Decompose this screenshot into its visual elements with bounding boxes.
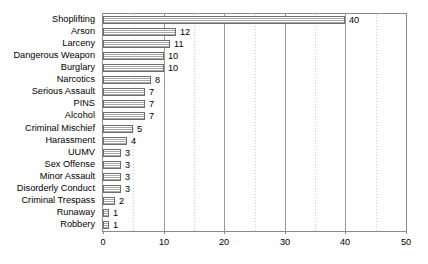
bar-row: 12 [103,26,406,38]
category-label: Minor Assault [40,170,95,182]
bar [103,197,115,205]
bar-row: 4 [103,135,406,147]
value-axis: 01020304050 [102,234,407,254]
axis-tick-label: 50 [401,237,411,247]
axis-tick-label: 40 [340,237,350,247]
axis-tick-label: 20 [219,237,229,247]
bar [103,40,170,48]
category-label: Burglary [61,61,95,73]
bar-value-label: 7 [149,110,154,122]
axis-tick-mark [224,231,225,234]
bar-row: 8 [103,74,406,86]
bar-value-label: 7 [149,98,154,110]
category-label: Criminal Mischief [25,122,95,134]
category-label: Sex Offense [45,158,95,170]
bar [103,52,164,60]
bar-value-label: 3 [125,183,130,195]
bar-value-label: 5 [137,123,142,135]
bar [103,209,109,217]
plot-inner: 40121110108777543333211 [103,14,406,231]
category-label: Alcohol [65,109,95,121]
bar-row: 3 [103,159,406,171]
category-label: Serious Assault [32,85,95,97]
bar-value-label: 7 [149,86,154,98]
bar [103,28,176,36]
bar-row: 7 [103,110,406,122]
bar-value-label: 10 [168,50,178,62]
bar-row: 3 [103,183,406,195]
bar [103,64,164,72]
bar [103,149,121,157]
bar [103,125,133,133]
bar [103,185,121,193]
bar-row: 10 [103,50,406,62]
category-label: Dangerous Weapon [13,49,95,61]
bar [103,100,145,108]
bar-row: 3 [103,147,406,159]
bar-value-label: 2 [119,195,124,207]
category-label: Arson [71,25,95,37]
bar-row: 40 [103,14,406,26]
axis-tick-mark [406,231,407,234]
plot-area: 40121110108777543333211 [102,13,407,232]
axis-tick-label: 30 [280,237,290,247]
category-label: Disorderly Conduct [17,182,95,194]
category-label: PINS [74,97,95,109]
category-axis: ShopliftingArsonLarcenyDangerous WeaponB… [0,13,99,232]
bar-value-label: 4 [131,135,136,147]
bar-row: 3 [103,171,406,183]
axis-tick-mark [164,231,165,234]
bar-value-label: 10 [168,62,178,74]
bar-value-label: 3 [125,171,130,183]
bar-value-label: 8 [155,74,160,86]
bar-value-label: 1 [113,207,118,219]
axis-tick-label: 10 [159,237,169,247]
bar [103,173,121,181]
bar [103,137,127,145]
bar-row: 1 [103,207,406,219]
axis-tick-mark [345,231,346,234]
bar [103,76,151,84]
bar-row: 7 [103,98,406,110]
bar-value-label: 40 [349,14,359,26]
bar-value-label: 3 [125,159,130,171]
bar-value-label: 3 [125,147,130,159]
bar-row: 11 [103,38,406,50]
category-label: Narcotics [57,73,95,85]
bar-value-label: 11 [174,38,184,50]
category-label: Robbery [60,218,95,230]
category-label: Criminal Trespass [21,194,95,206]
bar-chart: ShopliftingArsonLarcenyDangerous WeaponB… [0,0,428,264]
category-label: Larceny [62,37,95,49]
axis-tick-mark [103,231,104,234]
bar-value-label: 1 [113,219,118,231]
bar-row: 1 [103,219,406,231]
category-label: Runaway [57,206,95,218]
bar [103,161,121,169]
category-label: Shoplifting [52,13,95,25]
bar-value-label: 12 [180,26,190,38]
bar [103,16,345,24]
category-label: UUMV [68,146,95,158]
axis-tick-mark [285,231,286,234]
bar-row: 2 [103,195,406,207]
axis-tick-label: 0 [100,237,105,247]
bar [103,112,145,120]
bar-row: 7 [103,86,406,98]
bar-row: 10 [103,62,406,74]
bar [103,221,109,229]
bar-row: 5 [103,123,406,135]
category-label: Harassment [45,134,95,146]
bar [103,88,145,96]
